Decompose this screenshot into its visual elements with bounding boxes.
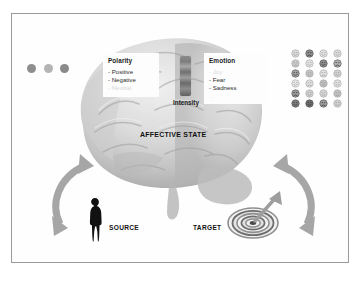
emoticon-face	[291, 99, 300, 108]
polarity-dots-group	[27, 62, 69, 74]
emoticon-face	[333, 69, 342, 78]
emoticon-face	[305, 59, 314, 68]
emotion-item-1: - Fear	[209, 76, 261, 84]
emoticon-face	[319, 49, 328, 58]
emotion-title: Emotion	[209, 57, 261, 65]
emoticon-grid	[289, 48, 344, 108]
target-label: TARGET	[193, 224, 221, 231]
emoticon-face	[305, 99, 314, 108]
person-silhouette-icon	[86, 196, 104, 244]
emoticon-face	[319, 89, 328, 98]
intensity-group: Intensity	[163, 56, 209, 111]
emoticon-face	[305, 79, 314, 88]
polarity-item-0: - Positive	[108, 68, 154, 76]
emoticon-face	[291, 69, 300, 78]
emoticon-face	[305, 69, 314, 78]
affective-state-diagram: Polarity - Positive - Negative - Neutral…	[0, 0, 364, 282]
emoticon-face	[291, 59, 300, 68]
polarity-dot-2	[44, 64, 53, 73]
emoticon-face	[291, 49, 300, 58]
emoticon-face	[319, 69, 328, 78]
emoticon-face	[319, 99, 328, 108]
emotion-item-3: ...	[209, 92, 261, 100]
emoticon-face	[333, 59, 342, 68]
source-label: SOURCE	[109, 224, 139, 231]
intensity-label: Intensity	[163, 99, 209, 106]
emotion-item-2: - Sadness	[209, 84, 261, 92]
affective-state-label: AFFECTIVE STATE	[140, 131, 207, 138]
emoticon-face	[319, 59, 328, 68]
emoticon-face	[333, 99, 342, 108]
intensity-gradient-bar	[180, 56, 191, 96]
polarity-label-box: Polarity - Positive - Negative - Neutral	[103, 53, 159, 97]
polarity-dot-1	[27, 64, 36, 73]
emoticon-face	[333, 89, 342, 98]
emoticon-face	[333, 79, 342, 88]
emoticon-face	[319, 79, 328, 88]
emoticon-face	[305, 49, 314, 58]
emoticon-face	[291, 89, 300, 98]
emoticon-face	[291, 79, 300, 88]
emoticon-face	[333, 49, 342, 58]
emotion-item-0: - Joy	[209, 68, 261, 76]
polarity-title: Polarity	[108, 57, 154, 65]
polarity-dot-3	[60, 64, 69, 73]
emoticon-face	[305, 89, 314, 98]
polarity-item-1: - Negative	[108, 76, 154, 84]
bullseye-target-icon	[224, 189, 286, 245]
polarity-item-2: - Neutral	[108, 84, 154, 92]
emotion-label-box: Emotion - Joy - Fear - Sadness ...	[204, 53, 266, 104]
